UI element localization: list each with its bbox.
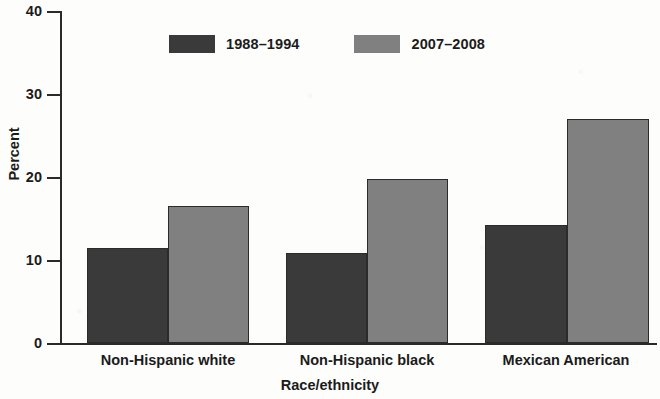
y-tick-label-20: 20	[26, 169, 42, 185]
bar-chart: 1988–1994 2007–2008 0 10 20 30 40 Percen…	[0, 0, 660, 399]
plot-area	[62, 11, 657, 343]
y-tick-mark-40	[47, 11, 61, 13]
x-category-label-non-hispanic-white: Non-Hispanic white	[101, 352, 236, 368]
x-category-label-mexican-american: Mexican American	[503, 352, 630, 368]
bar-1988-1994-non-hispanic-white	[87, 248, 168, 344]
y-axis-title: Percent	[6, 114, 22, 194]
y-tick-mark-20	[47, 177, 61, 179]
y-tick-label-10: 10	[26, 252, 42, 268]
bar-2007-2008-mexican-american	[567, 119, 649, 343]
bar-2007-2008-non-hispanic-black	[367, 179, 448, 343]
x-category-label-non-hispanic-black: Non-Hispanic black	[300, 352, 435, 368]
bar-1988-1994-mexican-american	[485, 225, 567, 343]
y-tick-mark-0	[47, 343, 61, 345]
bar-1988-1994-non-hispanic-black	[286, 253, 367, 343]
y-tick-label-0: 0	[34, 335, 42, 351]
y-tick-label-30: 30	[26, 86, 42, 102]
bar-2007-2008-non-hispanic-white	[168, 206, 249, 343]
y-tick-mark-10	[47, 260, 61, 262]
y-tick-mark-30	[47, 94, 61, 96]
x-axis-title: Race/ethnicity	[0, 377, 660, 393]
y-tick-label-40: 40	[26, 3, 42, 19]
x-axis-line	[60, 343, 657, 345]
